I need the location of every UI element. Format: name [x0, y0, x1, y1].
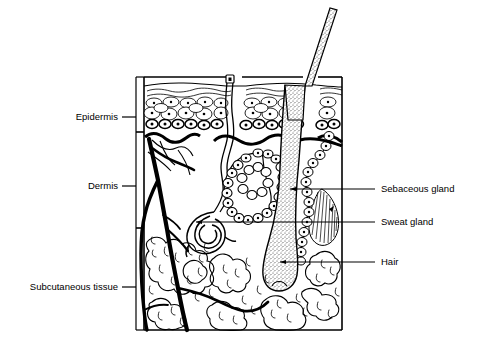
label-sebaceous-gland: Sebaceous gland: [381, 183, 454, 194]
label-dermis: Dermis: [88, 180, 118, 191]
label-hair: Hair: [381, 256, 398, 267]
skin-diagram-figure: Epidermis Dermis Subcutaneous tissue Seb…: [0, 0, 477, 354]
label-sweat-gland: Sweat gland: [381, 216, 433, 227]
label-subcutaneous-tissue: Subcutaneous tissue: [30, 281, 118, 292]
sweat-pore-lumen: [229, 78, 232, 82]
skin-cross-section-svg: Epidermis Dermis Subcutaneous tissue Seb…: [0, 0, 477, 354]
label-epidermis: Epidermis: [76, 111, 118, 122]
hair-shaft-epidermal: [285, 85, 305, 120]
